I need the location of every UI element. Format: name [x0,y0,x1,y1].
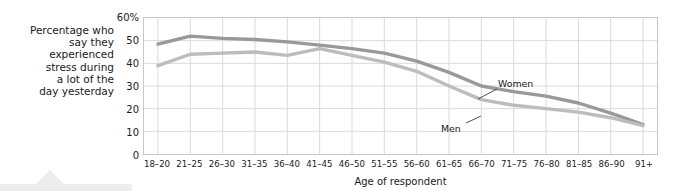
y-axis-tick-labels: 0102030405060% [101,0,139,191]
y-axis-tick-label: 50 [105,35,139,46]
y-axis-tick-label: 10 [105,127,139,138]
x-axis-tick-label: 91+ [635,159,653,169]
x-axis-tick-label: 56–60 [404,159,430,169]
plot-area [143,17,658,155]
x-axis-tick-label: 86–90 [598,159,624,169]
y-axis-caption-line: Percentage who [6,24,114,36]
series-label-women: Women [498,78,533,89]
series-lines [158,36,643,126]
x-axis-tick-label: 31–35 [241,159,267,169]
y-axis-caption-line: experienced [6,48,114,60]
stress-by-age-line-chart: Percentage who say they experienced stre… [0,0,684,191]
x-axis-tick-label: 81–85 [566,159,592,169]
series-line-men [158,49,643,126]
y-axis-tick-label: 60% [105,12,139,23]
x-axis-tick-labels: 18–2021–2526–3031–3536–4041–4546–5051–55… [143,159,658,173]
x-axis-tick-label: 71–75 [501,159,527,169]
series-label-men: Men [441,123,461,134]
x-axis-title: Age of respondent [143,176,658,187]
x-axis-tick-label: 76–80 [534,159,560,169]
y-axis-tick-label: 40 [105,58,139,69]
y-axis-tick-label: 20 [105,104,139,115]
x-axis-tick-label: 66–70 [469,159,495,169]
chart-canvas [144,18,657,154]
y-axis-caption-line: day yesterday [6,85,114,97]
x-axis-tick-label: 51–55 [371,159,397,169]
x-axis-tick-label: 41–45 [306,159,332,169]
x-axis-tick-label: 36–40 [274,159,300,169]
y-axis-tick-label: 30 [105,81,139,92]
y-axis-caption-line: say they [6,36,114,48]
x-axis-tick-label: 61–65 [436,159,462,169]
x-axis-tick-label: 21–25 [176,159,202,169]
x-axis-tick-label: 46–50 [339,159,365,169]
y-axis-caption: Percentage who say they experienced stre… [6,24,114,97]
y-axis-tick-label: 0 [105,150,139,161]
x-axis-tick-label: 18–20 [144,159,170,169]
y-axis-caption-line: stress during [6,61,114,73]
y-axis-caption-line: a lot of the [6,73,114,85]
x-axis-tick-label: 26–30 [209,159,235,169]
